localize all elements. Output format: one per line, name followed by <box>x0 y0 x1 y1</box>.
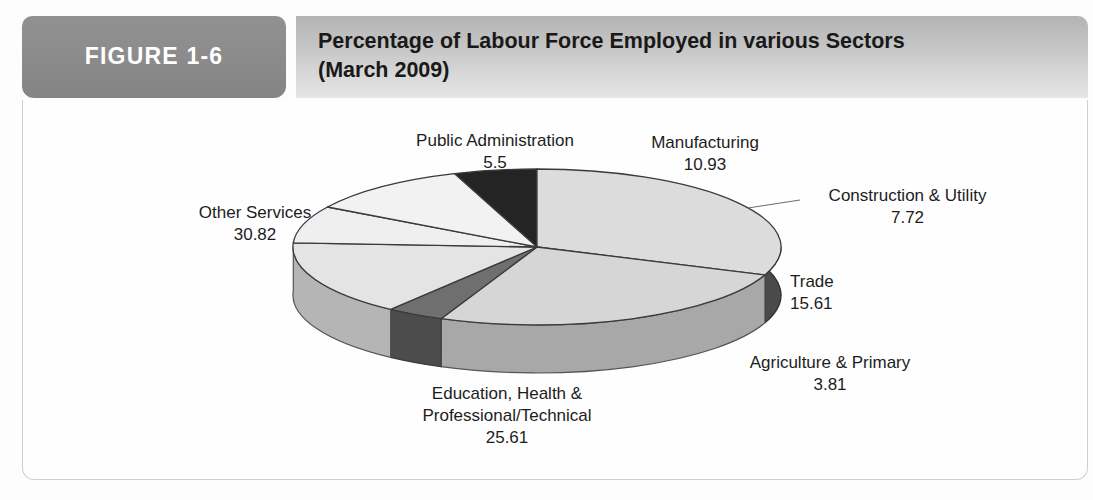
figure-number-tab: FIGURE 1-6 <box>22 16 286 98</box>
label-education-health: Education, Health & Professional/Technic… <box>372 383 642 449</box>
figure-number-label: FIGURE 1-6 <box>22 43 286 70</box>
label-education-health-value: 25.61 <box>372 427 642 449</box>
label-public-administration-value: 5.5 <box>390 152 600 174</box>
figure-title: Percentage of Labour Force Employed in v… <box>318 27 1074 85</box>
label-public-administration-name: Public Administration <box>416 131 574 150</box>
figure-container: FIGURE 1-6 Percentage of Labour Force Em… <box>0 0 1093 500</box>
label-construction-utility-value: 7.72 <box>800 207 1015 229</box>
label-trade: Trade 15.61 <box>790 271 900 315</box>
label-manufacturing-value: 10.93 <box>620 154 790 176</box>
label-other-services-value: 30.82 <box>155 224 355 246</box>
figure-title-line-1: Percentage of Labour Force Employed in v… <box>318 27 1074 56</box>
label-construction-utility: Construction & Utility 7.72 <box>800 185 1015 229</box>
label-education-health-name-line-2: Professional/Technical <box>372 405 642 427</box>
label-agriculture-primary: Agriculture & Primary 3.81 <box>715 352 945 396</box>
label-public-administration: Public Administration 5.5 <box>390 130 600 174</box>
label-education-health-name-line-1: Education, Health & <box>372 383 642 405</box>
label-manufacturing: Manufacturing 10.93 <box>620 132 790 176</box>
figure-title-line-2: (March 2009) <box>318 56 1074 85</box>
label-construction-utility-name: Construction & Utility <box>829 186 987 205</box>
figure-title-bar: Percentage of Labour Force Employed in v… <box>296 16 1088 98</box>
label-manufacturing-name: Manufacturing <box>651 133 759 152</box>
label-other-services: Other Services 30.82 <box>155 202 355 246</box>
label-trade-value: 15.61 <box>790 293 900 315</box>
label-trade-name: Trade <box>790 272 834 291</box>
label-agriculture-primary-value: 3.81 <box>715 374 945 396</box>
label-other-services-name: Other Services <box>199 203 311 222</box>
label-agriculture-primary-name: Agriculture & Primary <box>750 353 911 372</box>
